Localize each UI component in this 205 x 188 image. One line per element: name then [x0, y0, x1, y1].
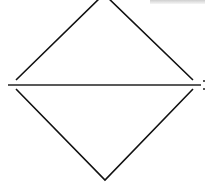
lower-triangle — [16, 89, 193, 180]
diagram-canvas — [0, 0, 205, 188]
diamond-diagram — [0, 0, 205, 188]
right-edge-mark-top — [203, 80, 205, 82]
upper-triangle — [16, 0, 193, 80]
right-edge-mark-bottom — [203, 88, 205, 90]
